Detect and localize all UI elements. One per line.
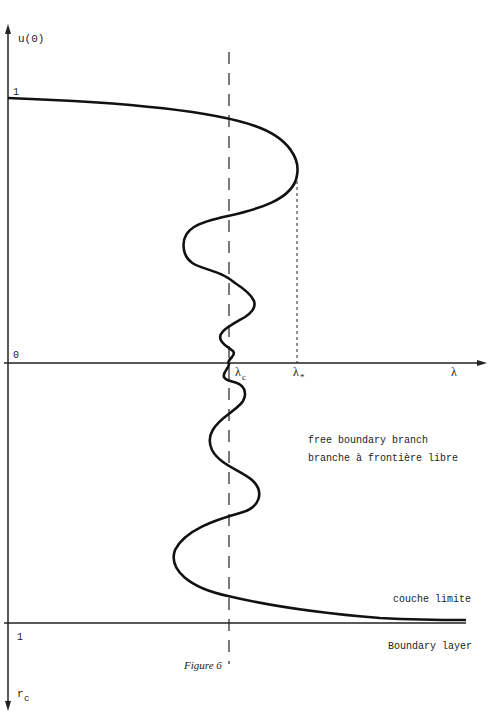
solution-curve-upper <box>8 98 298 363</box>
up-arrow-icon <box>5 24 11 34</box>
lambda-c-label: λ <box>235 365 241 379</box>
lambda-c-subscript: c <box>242 372 246 382</box>
right-arrow-icon <box>477 360 487 366</box>
solution-curve-lower <box>174 363 466 620</box>
bottom-axis-subscript: c <box>24 694 29 704</box>
couche-limite-label: couche limite <box>393 594 471 605</box>
bifurcation-diagram: u(0) 1 0 λ λ c λ * free boundary branch … <box>0 0 497 726</box>
bottom-tick-one: 1 <box>17 632 23 643</box>
lambda-star-label: λ <box>293 365 299 379</box>
free-boundary-label-en: free boundary branch <box>308 435 428 446</box>
bottom-axis-label: r <box>17 688 24 700</box>
lambda-star-subscript: * <box>300 372 305 382</box>
y-axis-label: u(0) <box>18 33 44 45</box>
boundary-layer-label: Boundary layer <box>388 641 472 652</box>
x-axis-label: λ <box>451 365 457 379</box>
origin-label: 0 <box>13 350 19 361</box>
down-arrow-icon <box>5 701 11 711</box>
figure-caption: Figure 6 <box>183 659 222 671</box>
y-tick-one: 1 <box>13 87 19 98</box>
free-boundary-label-fr: branche à frontière libre <box>308 453 458 464</box>
